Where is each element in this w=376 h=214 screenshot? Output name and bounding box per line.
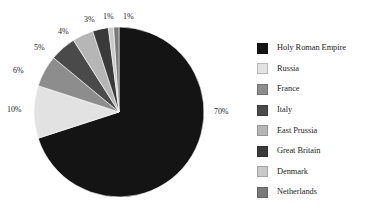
slice-label-denmark: 1% — [103, 12, 113, 21]
pie-chart-svg — [0, 0, 248, 214]
pie-slice-group — [34, 27, 204, 197]
legend-color-swatch — [257, 63, 268, 74]
slice-label-holy-roman-empire: 70% — [214, 107, 228, 116]
legend-item-label: Holy Roman Empire — [277, 43, 346, 53]
legend-item[interactable]: France — [257, 79, 376, 100]
slice-label-russia: 10% — [7, 105, 21, 114]
legend-item-label: Denmark — [277, 167, 308, 177]
legend-item-label: Russia — [277, 64, 299, 74]
legend-color-swatch — [257, 125, 268, 136]
legend-item[interactable]: Netherlands — [257, 182, 376, 203]
slice-label-france: 6% — [13, 66, 23, 75]
legend-item[interactable]: Great Britain — [257, 141, 376, 162]
legend-item[interactable]: Italy — [257, 100, 376, 121]
slice-label-great-britain: 3% — [84, 15, 94, 24]
legend-item-label: Netherlands — [277, 187, 317, 197]
legend-color-swatch — [257, 166, 268, 177]
legend-item-label: Great Britain — [277, 146, 320, 156]
slice-label-netherlands: 1% — [123, 12, 133, 21]
legend-color-swatch — [257, 84, 268, 95]
legend-item[interactable]: Holy Roman Empire — [257, 38, 376, 59]
legend-color-swatch — [257, 105, 268, 116]
slice-label-italy: 5% — [34, 43, 44, 52]
legend-item-label: Italy — [277, 105, 292, 115]
pie-chart-figure: 70% 10% 6% 5% 4% 3% 1% 1% Holy Roman Emp… — [0, 0, 376, 214]
chart-legend: Holy Roman EmpireRussiaFranceItalyEast P… — [257, 38, 376, 203]
legend-item[interactable]: East Prussia — [257, 120, 376, 141]
legend-item[interactable]: Denmark — [257, 162, 376, 183]
legend-color-swatch — [257, 187, 268, 198]
legend-item-label: East Prussia — [277, 126, 317, 136]
legend-item-label: France — [277, 84, 300, 94]
legend-color-swatch — [257, 146, 268, 157]
legend-color-swatch — [257, 43, 268, 54]
slice-label-east-prussia: 4% — [58, 27, 68, 36]
legend-item[interactable]: Russia — [257, 59, 376, 80]
pie-chart-plot-area: 70% 10% 6% 5% 4% 3% 1% 1% — [0, 0, 248, 214]
